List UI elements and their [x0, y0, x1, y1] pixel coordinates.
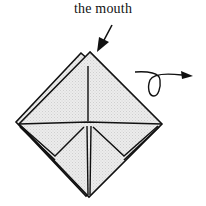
turn-over-arrow-icon: [135, 71, 193, 96]
origami-diagram: the mouth: [0, 0, 206, 206]
origami-figure: [0, 0, 206, 206]
center-slit-left: [87, 126, 88, 195]
center-slit-right: [90, 126, 91, 195]
pointer-arrow-icon: [97, 25, 112, 52]
